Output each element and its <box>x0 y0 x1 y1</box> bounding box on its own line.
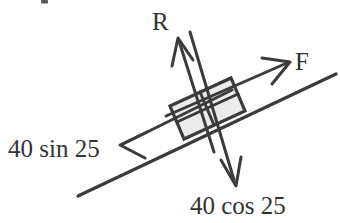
cropped-glyph-fragment <box>41 0 48 4</box>
perpendicular-weight-label: 40 cos 25 <box>190 192 286 219</box>
normal-force-label: R <box>152 8 169 35</box>
force-diagram-canvas: R F 40 sin 25 40 cos 25 <box>0 0 340 223</box>
inclined-plane-diagram: R F 40 sin 25 40 cos 25 <box>0 0 340 223</box>
parallel-weight-label: 40 sin 25 <box>8 135 100 162</box>
applied-force-label: F <box>295 48 309 75</box>
